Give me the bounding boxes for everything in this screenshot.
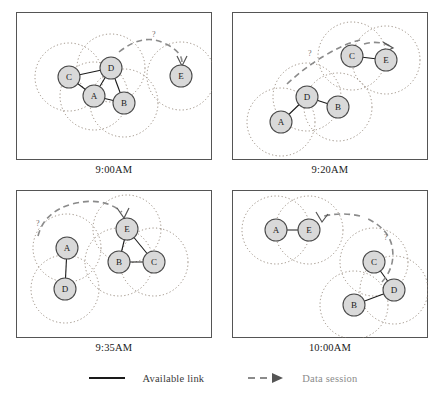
topology-diagram-10-00am: ? A E C xyxy=(232,190,428,338)
node-A[interactable]: A xyxy=(56,237,78,259)
svg-text:A: A xyxy=(273,225,280,235)
node-E[interactable]: E xyxy=(170,65,192,87)
panel-10-00am: ? A E C xyxy=(232,190,428,358)
panel-9-00am: ? C D A xyxy=(16,12,212,180)
nodes: C D A B E xyxy=(58,57,192,114)
panel-grid: ? C D A xyxy=(0,0,444,360)
svg-text:B: B xyxy=(116,257,122,267)
session-path-C-E-b xyxy=(324,214,360,216)
session-question-mark: ? xyxy=(384,233,388,242)
session-path-D-E xyxy=(38,201,122,236)
svg-text:A: A xyxy=(91,91,98,101)
svg-text:A: A xyxy=(64,243,71,253)
svg-text:E: E xyxy=(178,71,184,81)
node-A[interactable]: A xyxy=(270,111,292,133)
legend-label-available-link: Available link xyxy=(143,373,205,384)
svg-text:C: C xyxy=(349,51,355,61)
topology-diagram-9-00am: ? C D A xyxy=(16,12,212,160)
node-B[interactable]: B xyxy=(327,96,349,118)
session-arrowhead xyxy=(117,208,129,218)
panel-9-35am: ? A D E xyxy=(16,190,212,358)
svg-text:B: B xyxy=(121,98,127,108)
solid-line-icon xyxy=(87,370,127,388)
svg-text:D: D xyxy=(391,285,398,295)
session-question-mark: ? xyxy=(308,49,312,58)
session-question-mark: ? xyxy=(36,219,40,228)
panel-caption-9-35am: 9:35AM xyxy=(16,342,212,353)
svg-text:B: B xyxy=(351,300,357,310)
legend: Available link Data session xyxy=(0,368,444,388)
svg-text:B: B xyxy=(335,102,341,112)
svg-text:E: E xyxy=(383,55,389,65)
node-C[interactable]: C xyxy=(341,45,363,67)
coverage-circles xyxy=(242,196,428,338)
data-session-arrow: ? xyxy=(119,30,187,66)
node-C[interactable]: C xyxy=(363,251,385,273)
node-B[interactable]: B xyxy=(343,294,365,316)
nodes: C E D B A xyxy=(270,45,397,133)
topology-diagram-9-20am: ? C E D xyxy=(232,12,428,160)
legend-label-data-session: Data session xyxy=(302,373,357,384)
topology-diagram-9-35am: ? A D E xyxy=(16,190,212,338)
svg-text:C: C xyxy=(66,72,72,82)
panel-caption-10-00am: 10:00AM xyxy=(232,342,428,353)
svg-text:D: D xyxy=(304,92,311,102)
panel-9-20am: ? C E D xyxy=(232,12,428,180)
node-E[interactable]: E xyxy=(116,218,138,240)
panel-caption-9-00am: 9:00AM xyxy=(16,164,212,175)
session-arrowhead xyxy=(316,212,328,222)
node-B[interactable]: B xyxy=(108,251,130,273)
node-D[interactable]: D xyxy=(100,57,122,79)
svg-text:C: C xyxy=(371,257,377,267)
node-C[interactable]: C xyxy=(58,66,80,88)
network-topology-figure: ? C D A xyxy=(0,0,444,402)
panel-caption-9-20am: 9:20AM xyxy=(232,164,428,175)
coverage-circles xyxy=(247,22,420,156)
nodes: A D E B C xyxy=(54,218,165,300)
dashed-arrow-icon xyxy=(246,370,286,388)
node-E[interactable]: E xyxy=(375,49,397,71)
svg-text:E: E xyxy=(306,225,312,235)
session-question-mark: ? xyxy=(152,30,156,39)
node-A[interactable]: A xyxy=(265,219,287,241)
svg-text:D: D xyxy=(62,284,69,294)
legend-item-data-session: Data session xyxy=(246,369,357,388)
svg-text:A: A xyxy=(278,117,285,127)
node-C[interactable]: C xyxy=(143,251,165,273)
node-D[interactable]: D xyxy=(383,279,405,301)
svg-text:E: E xyxy=(124,224,130,234)
node-A[interactable]: A xyxy=(83,85,105,107)
svg-text:C: C xyxy=(151,257,157,267)
node-B[interactable]: B xyxy=(113,92,135,114)
svg-text:D: D xyxy=(108,63,115,73)
node-D[interactable]: D xyxy=(296,86,318,108)
data-session-arrow: ? xyxy=(36,201,129,236)
node-E[interactable]: E xyxy=(298,219,320,241)
legend-item-available-link: Available link xyxy=(87,369,205,388)
node-D[interactable]: D xyxy=(54,278,76,300)
